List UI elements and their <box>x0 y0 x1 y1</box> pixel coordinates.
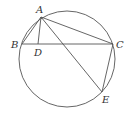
geometry-figure: A B C D E <box>0 0 130 118</box>
label-e: E <box>101 94 110 105</box>
label-b: B <box>10 39 18 50</box>
label-c: C <box>116 39 124 50</box>
label-d: D <box>33 47 42 58</box>
point-labels: A B C D E <box>10 4 124 105</box>
circumcircle <box>19 11 115 107</box>
label-a: A <box>35 4 43 15</box>
diagram-canvas: A B C D E <box>0 0 130 118</box>
